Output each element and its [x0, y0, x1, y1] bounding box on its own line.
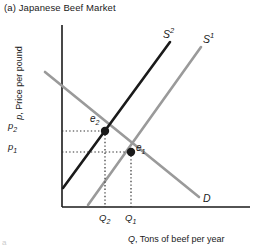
corner-mark: a [2, 238, 6, 247]
y-tick-label-p2: p2 [8, 120, 17, 133]
curve-label-s1-base: S [203, 33, 210, 45]
curve-label-s1-sup: 1 [210, 31, 214, 40]
point-label-e2: e2 [90, 113, 99, 126]
point-label-e2-sub: 2 [96, 119, 100, 126]
x-axis-variable: Q [128, 234, 135, 244]
x-tick-label-q2: Q2 [99, 212, 110, 225]
y-axis-description: , Price per pound [14, 46, 24, 115]
x-axis-title: Q, Tons of beef per year [128, 234, 224, 244]
y-tick-p1-sub: 1 [13, 147, 17, 154]
beef-market-figure: (a) Japanese Beef Market p, Price per po… [0, 0, 253, 250]
y-tick-label-p1: p1 [8, 141, 17, 154]
curve-label-s1: S1 [203, 31, 214, 45]
supply-curve-s1 [88, 47, 201, 205]
equilibrium-point-e2 [101, 127, 109, 135]
point-label-e1-sub: 1 [142, 148, 146, 155]
curve-label-d: D [203, 192, 211, 204]
curve-label-s2: S2 [163, 26, 174, 40]
x-tick-label-q1: Q1 [125, 212, 136, 225]
x-tick-q2-sub: 2 [106, 218, 110, 225]
x-tick-q1-sub: 1 [132, 218, 136, 225]
curve-label-s2-sup: 2 [170, 26, 174, 35]
demand-curve [45, 72, 199, 197]
point-label-e1: e1 [136, 142, 145, 155]
x-axis-description: , Tons of beef per year [135, 234, 224, 244]
curve-label-s2-base: S [163, 28, 170, 40]
equilibrium-point-e1 [127, 148, 135, 156]
y-tick-p2-sub: 2 [13, 126, 17, 133]
